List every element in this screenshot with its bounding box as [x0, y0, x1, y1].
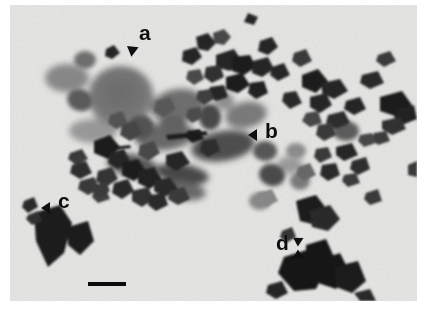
annotation-label-c: c [58, 190, 70, 211]
scale-bar [88, 282, 126, 286]
annotation-label-b: b [265, 120, 278, 141]
annotation-arrowhead-b [248, 129, 257, 141]
figure-root: a b c d [0, 0, 427, 310]
particle-field [10, 5, 417, 301]
annotation-arrowhead-c [41, 202, 50, 214]
micrograph-plate: a b c d [10, 5, 417, 301]
annotation-label-a: a [139, 22, 151, 43]
annotation-label-d: d [276, 232, 289, 253]
